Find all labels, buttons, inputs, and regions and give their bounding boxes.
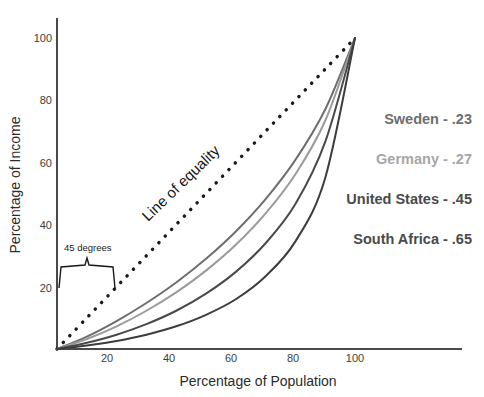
legend-item-united-states: United States - .45: [346, 191, 472, 207]
x-tick-label: 80: [287, 352, 299, 364]
chart-axes: [56, 18, 462, 349]
legend-item-south-africa: South Africa - .65: [353, 231, 472, 247]
legend-item-sweden: Sweden - .23: [384, 111, 472, 127]
y-tick-label: 20: [40, 282, 52, 294]
legend: Sweden - .23 Germany - .27 United States…: [346, 111, 472, 247]
y-tick-label: 80: [40, 94, 52, 106]
y-tick-label: 100: [34, 32, 52, 44]
x-tick-label: 60: [225, 352, 237, 364]
forty-five-degrees-annotation: 45 degrees: [59, 242, 115, 288]
curve-line-of-equality: [57, 38, 355, 349]
x-axis-title: Percentage of Population: [179, 373, 336, 389]
curve-layer: [57, 38, 355, 349]
x-tick-label: 100: [346, 352, 364, 364]
chart-svg: 100 80 60 40 20 20 40 60 80 100 Percenta…: [0, 0, 484, 397]
x-tick-labels: 20 40 60 80 100: [101, 352, 364, 364]
lorenz-curve-chart: 100 80 60 40 20 20 40 60 80 100 Percenta…: [0, 0, 484, 397]
legend-item-germany: Germany - .27: [376, 151, 472, 167]
y-tick-label: 60: [40, 157, 52, 169]
y-tick-label: 40: [40, 219, 52, 231]
forty-five-degrees-label: 45 degrees: [64, 242, 112, 253]
x-tick-label: 20: [101, 352, 113, 364]
line-of-equality-label: Line of equality: [138, 141, 223, 224]
x-tick-label: 40: [163, 352, 175, 364]
brace-shape: [59, 258, 115, 288]
y-axis-title: Percentage of Income: [7, 116, 23, 253]
y-tick-labels: 100 80 60 40 20: [34, 32, 52, 294]
